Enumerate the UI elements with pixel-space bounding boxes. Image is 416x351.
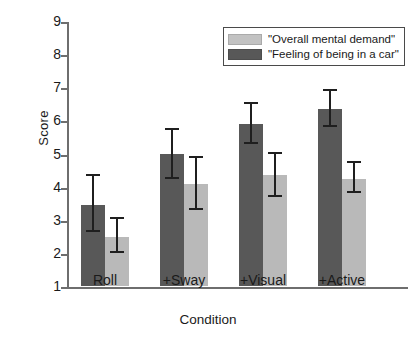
y-tick-label: 9 xyxy=(37,12,61,30)
y-tick: 2 xyxy=(67,254,68,256)
y-tick-label: 1 xyxy=(37,277,61,295)
y-tick-label: 2 xyxy=(37,244,61,262)
bar xyxy=(239,124,263,286)
error-bar-cap-top xyxy=(323,89,337,91)
y-tick-label: 7 xyxy=(37,78,61,96)
error-bar-cap-bottom xyxy=(244,142,258,144)
y-tick-mark xyxy=(61,188,67,190)
legend-label: "Feeling of being in a car" xyxy=(268,48,399,60)
y-tick-mark xyxy=(61,254,67,256)
bar-group xyxy=(81,21,129,286)
y-tick-mark xyxy=(61,121,67,123)
error-bar xyxy=(195,158,197,209)
error-bar-cap-top xyxy=(86,174,100,176)
bar xyxy=(318,109,342,286)
error-bar-cap-bottom xyxy=(165,177,179,179)
error-bar xyxy=(353,163,355,193)
bar-group xyxy=(160,21,208,286)
y-tick-mark xyxy=(61,22,67,24)
y-tick-mark xyxy=(61,88,67,90)
x-tick-label: +Sway xyxy=(139,272,229,288)
y-tick-mark xyxy=(61,221,67,223)
x-axis-title: Condition xyxy=(0,312,416,327)
y-tick: 8 xyxy=(67,55,68,57)
bar xyxy=(342,179,366,286)
x-tick-label: +Visual xyxy=(218,272,308,288)
error-bar-cap-top xyxy=(347,161,361,163)
error-bar-cap-bottom xyxy=(110,251,124,253)
legend-label: "Overall mental demand" xyxy=(268,33,395,45)
error-bar-cap-top xyxy=(244,102,258,104)
error-bar xyxy=(92,176,94,232)
error-bar-cap-bottom xyxy=(268,195,282,197)
y-tick-mark xyxy=(61,55,67,57)
error-bar xyxy=(250,104,252,144)
legend-swatch-icon-light xyxy=(228,34,262,45)
y-tick: 6 xyxy=(67,121,68,123)
error-bar-cap-top xyxy=(189,156,203,158)
error-bar-cap-top xyxy=(268,152,282,154)
y-tick-label: 5 xyxy=(37,145,61,163)
error-bar xyxy=(171,130,173,179)
error-bar-cap-bottom xyxy=(347,191,361,193)
x-tick-label: Roll xyxy=(60,272,150,288)
error-bar-cap-top xyxy=(165,128,179,130)
error-bar-cap-bottom xyxy=(189,208,203,210)
error-bar-cap-bottom xyxy=(86,230,100,232)
y-tick-label: 4 xyxy=(37,178,61,196)
y-tick: 4 xyxy=(67,188,68,190)
y-tick-mark xyxy=(61,155,67,157)
error-bar-cap-bottom xyxy=(323,125,337,127)
legend-swatch-icon-dark xyxy=(228,49,262,60)
chart-legend: "Overall mental demand" "Feeling of bein… xyxy=(223,27,405,66)
y-tick-label: 8 xyxy=(37,45,61,63)
error-bar xyxy=(274,154,276,197)
x-tick-label: +Active xyxy=(297,272,387,288)
y-tick: 5 xyxy=(67,155,68,157)
y-tick-label: 3 xyxy=(37,211,61,229)
legend-item-feeling-of-being-in-a-car: "Feeling of being in a car" xyxy=(228,47,399,61)
legend-item-overall-mental-demand: "Overall mental demand" xyxy=(228,32,399,46)
y-tick: 7 xyxy=(67,88,68,90)
error-bar xyxy=(116,219,118,252)
y-tick-label: 6 xyxy=(37,111,61,129)
error-bar xyxy=(329,91,331,127)
y-tick: 9 xyxy=(67,22,68,24)
y-tick: 3 xyxy=(67,221,68,223)
error-bar-cap-top xyxy=(110,217,124,219)
bar-chart-figure: Score Condition 123456789 Roll+Sway+Visu… xyxy=(0,0,416,351)
